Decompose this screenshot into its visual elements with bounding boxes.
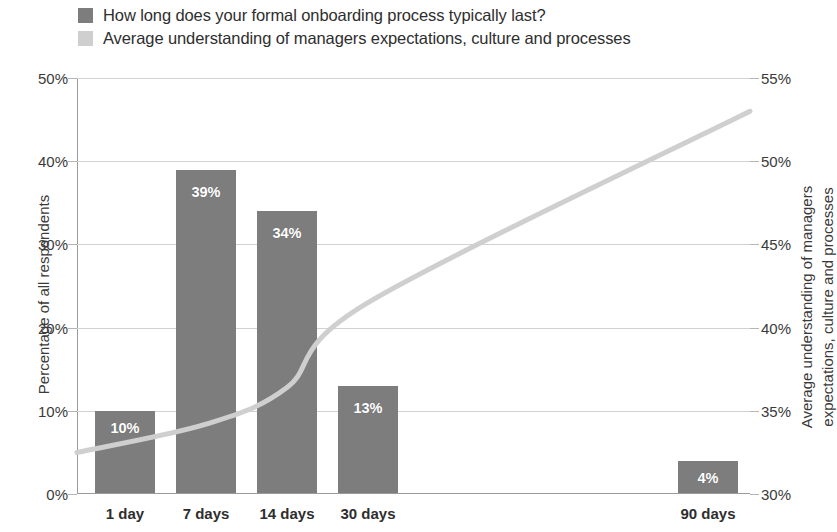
left-tick-label: 0%: [46, 486, 68, 503]
right-axis-title: Average understanding of managers expect…: [796, 147, 837, 467]
category-label: 14 days: [259, 505, 314, 522]
right-tick-label: 50%: [761, 153, 791, 170]
left-tick-label: 20%: [38, 319, 68, 336]
category-label: 90 days: [680, 505, 735, 522]
left-tick-mark: [68, 161, 77, 162]
category-label: 7 days: [183, 505, 230, 522]
chart-legend: How long does your formal onboarding pro…: [78, 4, 631, 50]
left-tick-mark: [68, 411, 77, 412]
right-tick-mark: [750, 244, 759, 245]
left-tick-label: 30%: [38, 236, 68, 253]
plot-area: 0%10%20%30%40%50% 30%35%40%45%50%55% 10%…: [77, 78, 750, 494]
right-tick-label: 40%: [761, 319, 791, 336]
right-tick-mark: [750, 494, 759, 495]
x-axis-baseline: [77, 493, 750, 495]
right-tick-label: 55%: [761, 70, 791, 87]
left-tick-label: 10%: [38, 402, 68, 419]
left-tick-label: 40%: [38, 153, 68, 170]
left-tick-label: 50%: [38, 70, 68, 87]
line-series: [77, 78, 750, 494]
right-tick-mark: [750, 328, 759, 329]
chart-container: How long does your formal onboarding pro…: [0, 0, 837, 532]
right-tick-label: 45%: [761, 236, 791, 253]
legend-label-line: Average understanding of managers expect…: [103, 29, 631, 48]
left-tick-mark: [68, 494, 77, 495]
legend-label-bars: How long does your formal onboarding pro…: [103, 6, 545, 25]
right-tick-label: 35%: [761, 402, 791, 419]
legend-swatch-light-icon: [78, 31, 93, 46]
category-label: 1 day: [106, 505, 144, 522]
right-tick-mark: [750, 161, 759, 162]
right-tick-label: 30%: [761, 486, 791, 503]
left-tick-mark: [68, 328, 77, 329]
right-tick-mark: [750, 78, 759, 79]
left-tick-mark: [68, 244, 77, 245]
category-label: 30 days: [340, 505, 395, 522]
left-tick-mark: [68, 78, 77, 79]
legend-item-line: Average understanding of managers expect…: [78, 27, 631, 50]
trend-line: [77, 111, 750, 452]
legend-swatch-dark-icon: [78, 8, 93, 23]
right-tick-mark: [750, 411, 759, 412]
legend-item-bars: How long does your formal onboarding pro…: [78, 4, 631, 27]
